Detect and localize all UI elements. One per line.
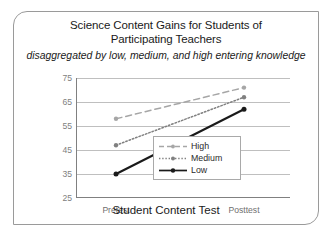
y-tick-label: 45 <box>62 145 72 155</box>
y-tick-label: 35 <box>62 169 72 179</box>
legend-label-high: High <box>191 141 209 151</box>
y-tick-label: 75 <box>62 73 72 83</box>
chart-title-line-2: Participating Teachers <box>14 32 318 46</box>
y-tick-label: 25 <box>62 193 72 203</box>
y-tick-label: 65 <box>62 97 72 107</box>
chart-title-line-1: Science Content Gains for Students of <box>14 18 318 32</box>
legend-item-low[interactable]: Low <box>159 164 236 176</box>
y-tick-label: 55 <box>62 121 72 131</box>
legend-item-high[interactable]: High <box>159 140 236 152</box>
legend-label-low: Low <box>191 165 207 175</box>
chart-title: Science Content Gains for Students of Pa… <box>14 18 318 46</box>
chart-legend: High Medium Low <box>153 136 241 180</box>
x-axis-title: Student Content Test <box>14 204 318 216</box>
legend-swatch-low <box>159 165 187 176</box>
chart-figure-frame: Science Content Gains for Students of Pa… <box>13 11 319 225</box>
chart-subtitle: disaggregated by low, medium, and high e… <box>14 49 318 62</box>
legend-item-medium[interactable]: Medium <box>159 152 236 164</box>
legend-label-medium: Medium <box>191 153 222 163</box>
legend-swatch-high <box>159 141 187 152</box>
legend-swatch-medium <box>159 153 187 164</box>
